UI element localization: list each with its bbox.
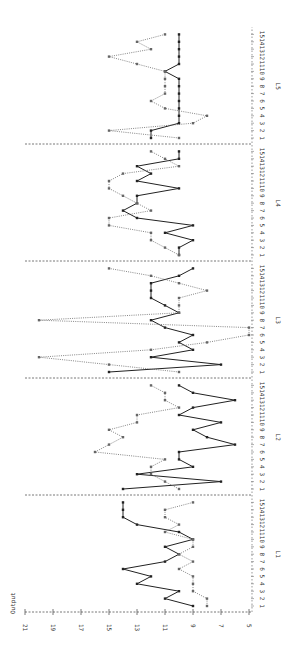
x-tick-label: 1 [259, 136, 266, 140]
data-point [122, 568, 124, 570]
data-point [136, 583, 138, 585]
data-point [206, 289, 208, 291]
data-point [164, 509, 166, 511]
series-dotted [38, 33, 250, 607]
x-tick-label: 8 [259, 552, 266, 556]
data-point [150, 282, 152, 284]
data-point [206, 597, 208, 599]
data-point [150, 319, 152, 321]
x-tick-label: 6 [259, 333, 266, 337]
data-point [192, 239, 194, 241]
x-axis: 123456789101112131415L112345678910111213… [251, 27, 282, 612]
data-point [206, 605, 208, 607]
data-point [38, 319, 40, 321]
x-tick-label: 13 [259, 163, 266, 171]
data-point [94, 451, 96, 453]
data-point [136, 523, 138, 525]
x-tick-label: 5 [259, 224, 266, 228]
data-point [164, 531, 166, 533]
data-point [164, 92, 166, 94]
data-point [192, 583, 194, 585]
data-point [108, 429, 110, 431]
x-tick-label: 7 [259, 560, 266, 564]
data-point [150, 356, 152, 358]
x-tick-label: 14 [259, 506, 266, 514]
data-point [164, 392, 166, 394]
data-point [206, 341, 208, 343]
x-tick-label: 14 [259, 155, 266, 163]
data-point [178, 165, 180, 167]
x-tick-label: 7 [259, 326, 266, 330]
segment-label: L5 [275, 83, 282, 91]
x-tick-label: 4 [259, 231, 266, 235]
data-point [164, 560, 166, 562]
x-tick-label: 12 [259, 170, 266, 178]
data-point [136, 202, 138, 204]
data-point [122, 436, 124, 438]
x-tick-label: 15 [259, 148, 266, 156]
x-tick-label: 10 [259, 68, 266, 76]
y-tick-label: 11 [162, 624, 169, 632]
x-tick-label: 1 [259, 253, 266, 257]
x-tick-label: 3 [259, 589, 266, 593]
data-point [164, 326, 166, 328]
y-axis: 211917151311975 [22, 609, 253, 632]
y-tick-label: 5 [246, 624, 253, 628]
x-tick-label: 12 [259, 287, 266, 295]
data-point [178, 553, 180, 555]
data-point [122, 501, 124, 503]
data-point [150, 473, 152, 475]
data-point [150, 275, 152, 277]
x-tick-label: 8 [259, 318, 266, 322]
x-tick-label: 7 [259, 443, 266, 447]
data-point [178, 92, 180, 94]
segment-label: L2 [275, 434, 282, 442]
data-point [122, 516, 124, 518]
x-tick-label: 15 [259, 382, 266, 390]
data-point [136, 63, 138, 65]
data-point [178, 531, 180, 533]
x-tick-label: 14 [259, 38, 266, 46]
data-point [150, 289, 152, 291]
data-point [178, 55, 180, 57]
data-point [150, 172, 152, 174]
x-tick-label: 7 [259, 209, 266, 213]
data-point [136, 414, 138, 416]
x-tick-label: 6 [259, 216, 266, 220]
y-tick-label: 9 [190, 624, 197, 628]
data-point [108, 224, 110, 226]
data-point [248, 326, 250, 328]
series-line [123, 385, 235, 489]
data-point [248, 334, 250, 336]
x-tick-label: 5 [259, 341, 266, 345]
x-tick-label: 2 [259, 246, 266, 250]
x-tick-label: 12 [259, 404, 266, 412]
data-point [136, 180, 138, 182]
data-point [136, 473, 138, 475]
data-point [150, 466, 152, 468]
x-tick-label: 8 [259, 435, 266, 439]
data-point [178, 254, 180, 256]
x-tick-label: 5 [259, 575, 266, 579]
x-tick-label: 10 [259, 536, 266, 544]
data-point [178, 33, 180, 35]
data-point [192, 546, 194, 548]
data-point [192, 538, 194, 540]
data-point [220, 421, 222, 423]
line-chart: 211917151311975 123456789101112131415L11… [0, 0, 296, 660]
x-tick-label: 6 [259, 567, 266, 571]
series-layer [38, 33, 250, 607]
x-tick-label: 14 [259, 389, 266, 397]
x-tick-label: 5 [259, 458, 266, 462]
data-point [122, 209, 124, 211]
data-point [108, 267, 110, 269]
data-point [164, 33, 166, 35]
x-tick-label: 1 [259, 370, 266, 374]
data-point [122, 509, 124, 511]
x-tick-label: 9 [259, 77, 266, 81]
data-point [192, 267, 194, 269]
data-point [178, 414, 180, 416]
x-tick-label: 11 [259, 60, 266, 68]
data-point [178, 384, 180, 386]
y-axis-title: Output [9, 592, 17, 614]
